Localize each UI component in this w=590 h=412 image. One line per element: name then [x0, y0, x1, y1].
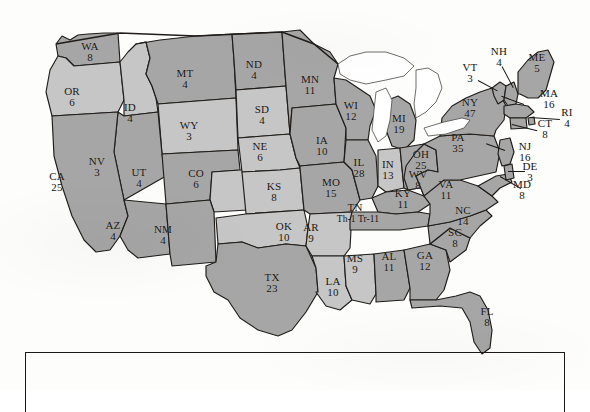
state-electoral-votes: 35: [451, 143, 464, 154]
state-label-me: ME5: [529, 52, 546, 74]
state-label-mo: MO15: [322, 177, 340, 199]
state-label-mi: MI19: [392, 113, 406, 135]
state-label-nv: NV3: [89, 156, 105, 178]
state-electoral-votes: 8: [267, 192, 281, 203]
state-electoral-votes: 11: [301, 85, 319, 96]
state-shape-ma: [504, 104, 534, 118]
state-electoral-votes: 4: [154, 235, 172, 246]
state-electoral-votes: 19: [392, 124, 406, 135]
state-label-ia: IA10: [316, 135, 328, 157]
state-electoral-votes: 6: [64, 97, 80, 108]
state-electoral-votes: 11: [395, 199, 411, 210]
state-label-vt: VT3: [462, 62, 477, 84]
state-label-sc: SC8: [448, 227, 462, 249]
state-label-wa: WA8: [81, 41, 99, 63]
state-label-wy: WY3: [180, 120, 199, 142]
state-label-or: OR6: [64, 86, 80, 108]
state-label-ri: RI4: [561, 107, 572, 129]
state-electoral-votes: 3: [89, 167, 105, 178]
state-electoral-votes: 8: [513, 190, 531, 201]
state-electoral-votes: 4: [561, 118, 572, 129]
state-electoral-votes: 12: [417, 261, 433, 272]
state-electoral-votes: 4: [491, 57, 507, 68]
state-electoral-votes: 12: [344, 111, 358, 122]
state-electoral-votes: 9: [303, 233, 319, 244]
state-label-al: AL11: [381, 251, 396, 273]
state-label-mn: MN11: [301, 74, 319, 96]
state-label-pa: PA35: [451, 132, 464, 154]
state-label-co: CO6: [188, 168, 204, 190]
state-electoral-votes: 23: [264, 283, 279, 294]
state-label-nm: NM4: [154, 224, 172, 246]
state-electoral-votes: 10: [276, 232, 292, 243]
state-electoral-votes: 3: [462, 73, 477, 84]
state-label-mt: MT4: [177, 68, 194, 90]
lake-superior: [338, 52, 414, 84]
state-label-ok: OK10: [276, 221, 292, 243]
state-electoral-votes: 15: [322, 188, 340, 199]
state-label-id: ID4: [124, 102, 136, 124]
state-electoral-votes: 4: [177, 79, 194, 90]
state-label-wi: WI12: [344, 100, 358, 122]
state-label-ut: UT4: [131, 167, 146, 189]
state-shape-nj: [498, 138, 514, 166]
state-electoral-votes: 6: [188, 179, 204, 190]
state-electoral-votes: 16: [540, 99, 558, 110]
lake-huron-erie: [414, 68, 442, 118]
state-electoral-votes: 5: [529, 63, 546, 74]
state-electoral-votes: 4: [255, 115, 269, 126]
state-abbr: TN: [347, 202, 362, 213]
state-label-va: VA11: [439, 179, 454, 201]
state-label-ms: MS9: [347, 253, 363, 275]
state-electoral-votes: 6: [252, 152, 267, 163]
state-label-ne: NE6: [252, 141, 267, 163]
state-electoral-votes: 8: [448, 238, 462, 249]
state-electoral-votes: 11: [381, 262, 396, 273]
state-electoral-votes: 8: [480, 317, 493, 328]
state-electoral-votes: 8: [409, 180, 428, 191]
state-label-ks: KS8: [267, 181, 281, 203]
state-label-ca: CA25: [49, 171, 65, 193]
state-label-il: IL28: [353, 157, 364, 179]
state-shape-ok: [216, 210, 308, 248]
state-electoral-votes: 4: [105, 231, 120, 242]
state-shape-ne: [238, 134, 300, 172]
state-shape-or: [46, 56, 124, 116]
state-label-la: LA10: [325, 276, 340, 298]
state-electoral-votes: 25: [49, 182, 65, 193]
state-label-in: IN13: [382, 159, 394, 181]
state-electoral-votes: 8: [538, 129, 552, 140]
state-label-sd: SD4: [255, 104, 269, 126]
state-electoral-votes: 3: [180, 131, 199, 142]
state-label-ga: GA12: [417, 250, 433, 272]
state-shape-nm: [166, 200, 216, 266]
state-label-nc: NC14: [455, 205, 471, 227]
state-label-tn: TN: [347, 202, 362, 213]
state-electoral-votes: 9: [347, 264, 363, 275]
state-electoral-votes: 10: [316, 146, 328, 157]
state-label-ar: AR9: [303, 222, 319, 244]
state-electoral-votes: 28: [353, 168, 364, 179]
state-electoral-votes: 13: [382, 170, 394, 181]
state-split-vote-annotation-tn: Th-1 Tr-11: [337, 214, 379, 224]
state-electoral-votes: 4: [246, 70, 262, 81]
state-electoral-votes: 10: [325, 287, 340, 298]
state-label-wv: WV8: [409, 169, 428, 191]
state-label-nd: ND4: [246, 59, 262, 81]
state-label-ma: MA16: [540, 88, 558, 110]
state-label-nh: NH4: [491, 46, 507, 68]
state-label-md: MD8: [513, 179, 531, 201]
state-label-ny: NY47: [462, 97, 478, 119]
state-electoral-votes: 8: [81, 52, 99, 63]
state-electoral-votes: 14: [455, 216, 471, 227]
state-shape-tx: [206, 242, 318, 336]
state-electoral-votes: 4: [131, 178, 146, 189]
state-label-az: AZ4: [105, 220, 120, 242]
legend-box: [25, 352, 565, 412]
state-label-fl: FL8: [480, 306, 493, 328]
state-label-tx: TX23: [264, 272, 279, 294]
state-label-ct: CT8: [538, 118, 552, 140]
state-electoral-votes: 47: [462, 108, 478, 119]
state-electoral-votes: 4: [124, 113, 136, 124]
